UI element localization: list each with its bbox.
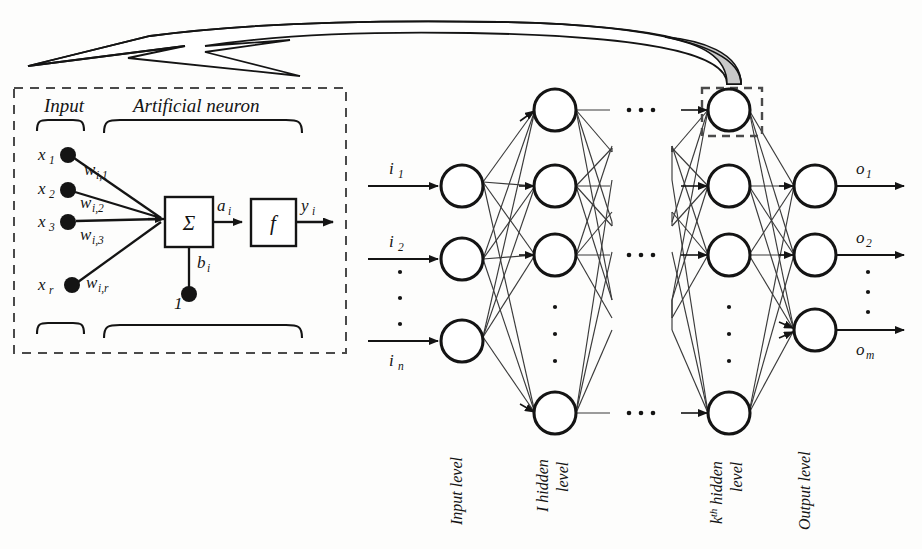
detail-input-node-3 bbox=[60, 214, 76, 230]
detail-input-label-xr: x bbox=[37, 275, 46, 294]
kth-hidden-node-3[interactable] bbox=[708, 234, 750, 276]
bias-label: b bbox=[197, 253, 206, 272]
kth-vertical-dot-3 bbox=[727, 359, 731, 363]
input-layer-nodes bbox=[441, 165, 483, 362]
detail-input-2: x 2 w i,2 bbox=[37, 179, 161, 218]
net-input-label: a bbox=[217, 196, 226, 215]
input-node-2[interactable] bbox=[441, 238, 483, 280]
level-label-kth-hidden-word: hidden bbox=[708, 461, 725, 509]
input-sub-i2: 2 bbox=[398, 241, 404, 253]
detail-input-node-2 bbox=[60, 182, 76, 198]
hidden1-vertical-dot-3 bbox=[553, 359, 557, 363]
callout-arrow bbox=[28, 21, 741, 84]
output-label-o2: o bbox=[856, 228, 865, 247]
bias-constant-label: 1 bbox=[174, 294, 183, 313]
bias-node bbox=[181, 286, 197, 302]
level-label-output: Output level bbox=[796, 451, 814, 530]
summation-symbol: Σ bbox=[182, 211, 196, 235]
kth-hidden-node-last[interactable] bbox=[708, 392, 750, 434]
detail-input-label-x3: x bbox=[37, 212, 46, 231]
input-label-in: i bbox=[389, 351, 394, 370]
kth-hidden-node-2[interactable] bbox=[708, 165, 750, 207]
input-vertical-dot-3 bbox=[398, 322, 402, 326]
input-vertical-dot-1 bbox=[398, 270, 402, 274]
hidden1-node-last[interactable] bbox=[534, 392, 576, 434]
output-label-o1: o bbox=[856, 159, 865, 178]
input-label-i1: i bbox=[389, 159, 394, 178]
edges-kth-to-output bbox=[749, 110, 794, 413]
level-label-hidden1-line2: level bbox=[554, 461, 571, 492]
neuron-output-sub: i bbox=[312, 205, 315, 217]
detail-input-sub-x1: 1 bbox=[49, 154, 55, 166]
kth-vertical-dot-2 bbox=[727, 332, 731, 336]
hidden1-layer-nodes bbox=[534, 89, 576, 434]
level-label-kth-hidden: kth hidden level bbox=[708, 461, 745, 524]
detail-input-label-x2: x bbox=[37, 179, 46, 198]
edges-hidden1-out bbox=[576, 110, 612, 413]
horizontal-ellipsis-top bbox=[627, 108, 656, 113]
detail-input-sub-xr: r bbox=[49, 284, 54, 296]
horizontal-ellipsis-middle bbox=[627, 253, 656, 258]
kth-hidden-node-1-highlighted[interactable] bbox=[708, 89, 750, 131]
detail-weight-label-r: w bbox=[86, 273, 98, 292]
output-layer-nodes bbox=[794, 165, 836, 351]
level-label-kth-sup: th bbox=[708, 509, 719, 517]
detail-header-neuron: Artificial neuron bbox=[131, 95, 259, 116]
figure-canvas: Input Artificial neuron x 1 w i,1 x 2 w … bbox=[0, 0, 922, 549]
output-sub-o2: 2 bbox=[866, 237, 872, 249]
hidden1-node-3[interactable] bbox=[534, 234, 576, 276]
output-vertical-dot-3 bbox=[866, 310, 870, 314]
input-node-n[interactable] bbox=[441, 320, 483, 362]
input-node-1[interactable] bbox=[441, 165, 483, 207]
neural-network-figure: Input Artificial neuron x 1 w i,1 x 2 w … bbox=[0, 0, 922, 549]
horizontal-ellipsis-bottom bbox=[627, 411, 656, 416]
output-label-om: o bbox=[856, 340, 865, 359]
detail-input-sub-x3: 3 bbox=[48, 221, 55, 233]
output-node-1[interactable] bbox=[794, 165, 836, 207]
detail-weight-sub-2: i,2 bbox=[92, 202, 104, 215]
level-label-kth-line2: level bbox=[728, 461, 745, 492]
brace-input-top bbox=[37, 120, 84, 131]
input-sub-in: n bbox=[398, 360, 404, 372]
detail-input-node-r bbox=[64, 277, 80, 293]
kth-vertical-dot-1 bbox=[727, 305, 731, 309]
bias-sub: i bbox=[207, 262, 210, 274]
detail-header-input: Input bbox=[43, 95, 85, 116]
output-vertical-dot-2 bbox=[866, 290, 870, 294]
net-input-sub: i bbox=[228, 205, 231, 217]
level-label-hidden1-line1: I hidden bbox=[534, 459, 551, 513]
brace-neuron-bottom bbox=[104, 325, 302, 338]
hidden1-node-2[interactable] bbox=[534, 165, 576, 207]
input-vertical-dot-2 bbox=[398, 296, 402, 300]
input-sub-i1: 1 bbox=[398, 168, 404, 180]
detail-weight-sub-3: i,3 bbox=[92, 234, 104, 247]
output-sub-om: m bbox=[866, 349, 874, 361]
neuron-detail-panel: Input Artificial neuron x 1 w i,1 x 2 w … bbox=[14, 88, 346, 353]
neuron-output-label: y bbox=[299, 196, 309, 215]
detail-weight-label-2: w bbox=[80, 193, 92, 212]
input-label-i2: i bbox=[389, 232, 394, 251]
output-vertical-dot-1 bbox=[866, 270, 870, 274]
edges-input-to-hidden1 bbox=[483, 110, 535, 413]
detail-input-sub-x2: 2 bbox=[49, 188, 55, 200]
detail-weight-label-1: w bbox=[84, 160, 96, 179]
level-label-input: Input level bbox=[448, 456, 466, 526]
output-node-m[interactable] bbox=[794, 309, 836, 351]
hidden1-vertical-dot-2 bbox=[553, 332, 557, 336]
output-sub-o1: 1 bbox=[866, 168, 872, 180]
brace-input-bottom bbox=[37, 323, 84, 334]
hidden1-vertical-dot-1 bbox=[553, 305, 557, 309]
detail-weight-sub-1: i,1 bbox=[96, 169, 108, 182]
detail-weight-sub-r: i,r bbox=[98, 282, 109, 295]
edge-arrowheads-hidden1 bbox=[519, 111, 534, 412]
output-node-2[interactable] bbox=[794, 234, 836, 276]
detail-input-node-1 bbox=[60, 147, 76, 163]
edges-into-kth-hidden bbox=[672, 110, 708, 413]
brace-neuron-top bbox=[104, 120, 302, 133]
output-layer-arrows: o 1 o 2 o m bbox=[836, 159, 904, 361]
svg-text:kth hidden: kth hidden bbox=[708, 461, 725, 524]
horizontal-ellipsis-group bbox=[627, 108, 656, 416]
detail-input-label-x1: x bbox=[37, 145, 46, 164]
hidden1-node-1[interactable] bbox=[534, 89, 576, 131]
input-layer-arrows: i 1 i 2 i n bbox=[368, 159, 438, 372]
